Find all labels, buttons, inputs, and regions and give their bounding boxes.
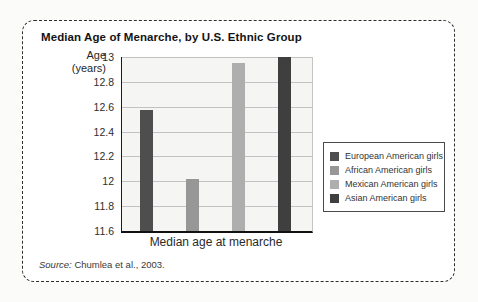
legend-item: European American girls	[330, 149, 440, 163]
y-axis-tick-labels: 1312.812.612.412.21211.811.6	[61, 57, 114, 231]
legend-swatch-icon	[330, 194, 339, 203]
legend-item: Mexican American girls	[330, 177, 440, 191]
x-axis-label: Median age at menarche	[121, 235, 311, 249]
y-tick-label: 12	[61, 175, 114, 187]
y-tick-label: 11.8	[61, 200, 114, 212]
legend: European American girlsAfrican American …	[323, 142, 445, 212]
bar-mexican-american-girls	[232, 63, 245, 231]
legend-item-label: European American girls	[345, 151, 443, 161]
y-tick-label: 12.2	[61, 150, 114, 162]
y-tick-label: 12.4	[61, 126, 114, 138]
source-note: Source: Chumlea et al., 2003.	[39, 259, 165, 270]
legend-item-label: Mexican American girls	[345, 179, 438, 189]
y-tick-label: 11.6	[61, 225, 114, 237]
bar-asian-american-girls	[278, 57, 291, 231]
source-citation: Chumlea et al., 2003.	[72, 259, 165, 270]
source-label: Source:	[39, 259, 72, 270]
legend-item-label: Asian American girls	[345, 193, 427, 203]
figure-panel: Median Age of Menarche, by U.S. Ethnic G…	[22, 20, 455, 282]
plot-area	[121, 57, 313, 233]
legend-swatch-icon	[330, 166, 339, 175]
legend-swatch-icon	[330, 180, 339, 189]
legend-item-label: African American girls	[345, 165, 432, 175]
y-tick-label: 12.6	[61, 101, 114, 113]
bar-african-american-girls	[186, 179, 199, 231]
y-tick-label: 13	[61, 51, 114, 63]
legend-item: Asian American girls	[330, 191, 440, 205]
legend-swatch-icon	[330, 152, 339, 161]
y-tick-label: 12.8	[61, 76, 114, 88]
legend-item: African American girls	[330, 163, 440, 177]
chart-title: Median Age of Menarche, by U.S. Ethnic G…	[41, 31, 302, 43]
bar-european-american-girls	[140, 110, 153, 231]
